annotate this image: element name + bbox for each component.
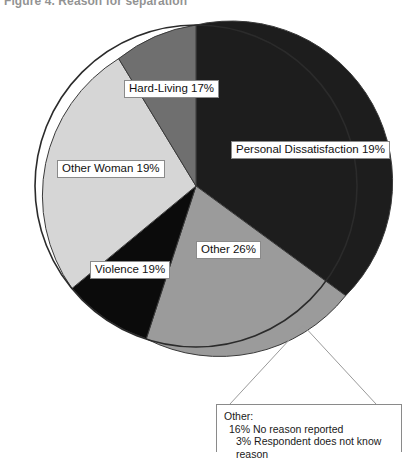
callout-item-does-not-know-reason: 3% Respondent does not know reason	[224, 435, 397, 460]
slice-label-violence: Violence 19%	[90, 261, 170, 279]
slice-label-personal-dissatisfaction: Personal Dissatisfaction 19%	[231, 141, 390, 159]
callout-heading: Other:	[224, 410, 397, 423]
callout-item-no-reason-reported: 16% No reason reported	[224, 423, 397, 436]
slice-label-hard-living: Hard-Living 17%	[124, 80, 219, 98]
slice-label-other: Other 26%	[196, 241, 261, 259]
callout-box: Other: 16% No reason reported 3% Respond…	[216, 404, 402, 452]
slice-label-other-woman: Other Woman 19%	[57, 160, 165, 178]
callout-leader-right	[303, 325, 376, 404]
